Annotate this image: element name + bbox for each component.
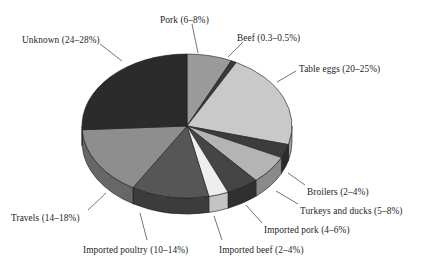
leader-imported-poultry	[140, 213, 147, 240]
leader-unknown	[100, 44, 122, 61]
slice-label-unknown: Unknown (24–28%)	[22, 36, 100, 46]
slice-label-broilers: Broilers (2–4%)	[307, 188, 369, 198]
slice-label-imported-beef: Imported beef (2–4%)	[219, 246, 304, 256]
leader-pork	[192, 24, 198, 53]
leader-imported-pork	[246, 205, 262, 223]
leader-beef	[228, 42, 243, 57]
slice-label-turkeys-and-ducks: Turkeys and ducks (5–8%)	[300, 207, 403, 217]
slice-label-imported-poultry: Imported poultry (10–14%)	[83, 246, 188, 256]
slice-label-beef: Beef (0.3–0.5%)	[237, 34, 300, 44]
leader-table-eggs	[277, 71, 296, 82]
pie-slice-unknown	[82, 54, 187, 130]
leader-broilers	[288, 173, 305, 185]
pie-top-slices	[82, 54, 292, 198]
leader-travels	[88, 193, 106, 210]
slice-label-table-eggs: Table eggs (20–25%)	[299, 65, 380, 75]
leader-imported-beef	[214, 216, 222, 240]
leader-turkeys-ducks	[276, 191, 298, 204]
cut-off-caption	[0, 266, 435, 275]
slice-label-pork: Pork (6–8%)	[160, 16, 209, 26]
slice-label-travels: Travels (14–18%)	[11, 214, 80, 224]
pie-chart-figure: Unknown (24–28%) Pork (6–8%) Beef (0.3–0…	[0, 0, 435, 275]
slice-label-imported-pork: Imported pork (4–6%)	[264, 226, 350, 236]
